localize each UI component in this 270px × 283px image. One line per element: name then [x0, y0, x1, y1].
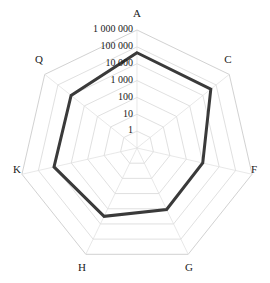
axis-label-g: G [185, 261, 193, 273]
axis-spoke-c [137, 74, 229, 148]
radar-chart-container: 1 000 000100 00010 0001 000100101 ACFGHK… [0, 0, 270, 283]
tick-label: 100 [118, 91, 133, 102]
axis-label-h: H [78, 261, 86, 273]
radar-chart-svg: 1 000 000100 00010 0001 000100101 ACFGHK… [0, 0, 270, 283]
axis-spoke-f [137, 148, 252, 174]
tick-labels-group: 1 000 000100 00010 0001 000100101 [93, 23, 133, 135]
axis-label-c: C [224, 53, 231, 65]
axis-spokes-group [22, 30, 252, 254]
tick-label: 1 [128, 124, 133, 135]
tick-label: 100 000 [101, 40, 134, 51]
tick-label: 1 000 [111, 74, 134, 85]
tick-label: 10 [123, 108, 133, 119]
tick-label: 10 000 [106, 57, 134, 68]
axis-spoke-h [86, 148, 137, 254]
axis-spoke-g [137, 148, 188, 254]
axis-label-f: F [251, 163, 257, 175]
axis-labels-group: ACFGHKQ [13, 7, 257, 273]
axis-label-q: Q [35, 53, 43, 65]
axis-label-a: A [133, 7, 141, 19]
axis-spoke-k [22, 148, 137, 174]
axis-label-k: K [13, 163, 21, 175]
tick-label: 1 000 000 [93, 23, 133, 34]
